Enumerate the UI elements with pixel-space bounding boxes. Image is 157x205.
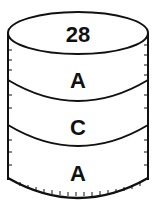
cylinder-diagram: 28 A C A <box>0 0 157 205</box>
band-label-2: C <box>70 115 86 140</box>
top-label: 28 <box>66 22 90 47</box>
band-label-3: A <box>70 161 86 186</box>
band-label-1: A <box>70 68 86 93</box>
